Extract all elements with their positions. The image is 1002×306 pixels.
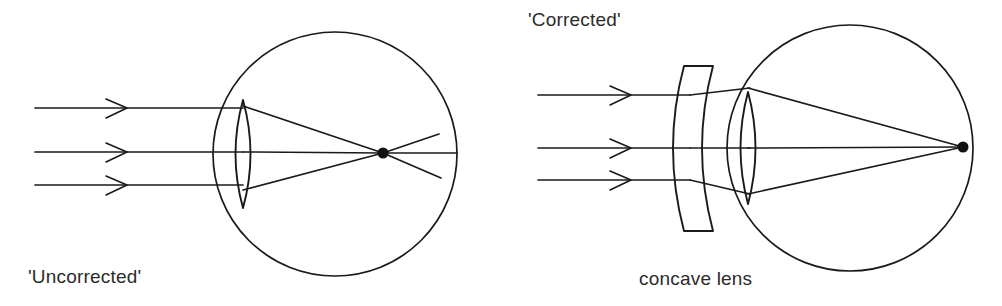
- panel-label-uncorrected: 'Uncorrected': [28, 266, 141, 287]
- focal-point-uncorrected: [378, 148, 389, 159]
- concave-lens-label: concave lens: [639, 268, 752, 289]
- focal-point-corrected: [958, 142, 969, 153]
- eye-optics-diagram: 'Uncorrected' 'Corrected' concave lens: [0, 0, 1002, 306]
- figure-background: [0, 0, 1002, 306]
- refracted-ray-middle-corrected: [748, 147, 963, 148]
- panel-label-corrected: 'Corrected': [528, 9, 621, 30]
- refracted-ray-middle-uncorrected: [243, 152, 383, 153]
